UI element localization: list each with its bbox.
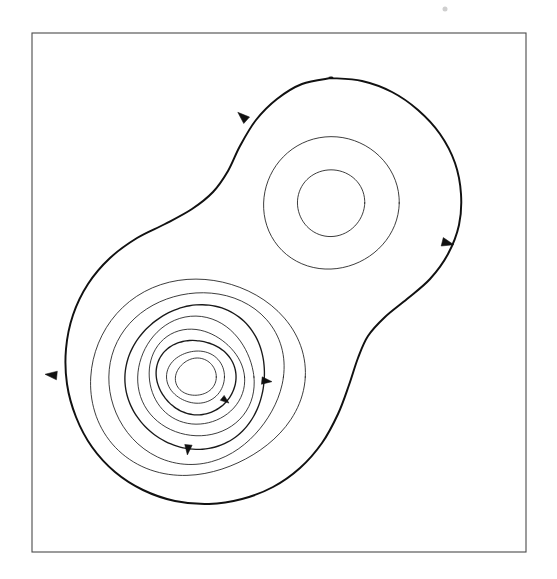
orbit-upper-right-orbit-1 — [264, 137, 400, 269]
figure-root — [0, 0, 557, 579]
orbit-lower-left-orbit-3 — [125, 305, 265, 450]
phase-portrait-svg — [0, 0, 557, 579]
dust-speck — [443, 7, 448, 12]
orbit-separatrix — [65, 77, 461, 504]
arrow-orbit-3-bottom-icon — [184, 444, 192, 455]
orbit-lower-left-orbit-8 — [175, 358, 216, 395]
orbit-lower-left-orbit-2 — [109, 293, 284, 465]
artifacts-layer — [443, 7, 448, 12]
flow-direction-arrows-layer — [45, 109, 455, 455]
orbits-layer — [65, 77, 461, 504]
orbit-lower-left-orbit-1 — [91, 279, 306, 475]
plot-border — [32, 33, 526, 552]
orbit-upper-right-orbit-2 — [297, 170, 364, 237]
orbit-lower-left-orbit-5 — [149, 329, 245, 424]
arrow-orbit-3-right-icon — [261, 377, 272, 385]
arrow-separatrix-left-icon — [45, 370, 58, 380]
orbit-lower-left-orbit-4 — [138, 316, 255, 436]
arrow-separatrix-top-left-icon — [235, 109, 250, 123]
